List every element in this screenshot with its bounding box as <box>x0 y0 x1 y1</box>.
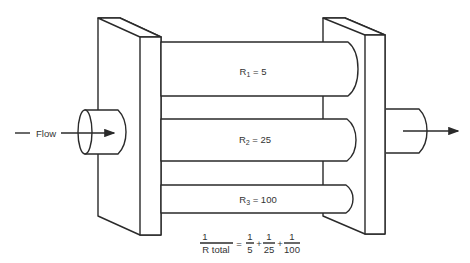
term2-denominator: 25 <box>264 244 275 255</box>
term1-numerator: 1 <box>247 231 252 242</box>
inlet-pipe-opening <box>78 110 92 154</box>
lhs-numerator: 1 <box>202 231 207 242</box>
term2-numerator: 1 <box>266 231 271 242</box>
total-resistance-formula: 1 R total = 1 5 + 1 25 + 1 100 <box>200 231 300 255</box>
pipe-r1-label: R1 = 5 <box>240 66 267 78</box>
term1-denominator: 5 <box>247 244 252 255</box>
pipe-r1: R1 = 5 <box>161 42 358 96</box>
pipe-r2-label: R2 = 25 <box>239 134 271 146</box>
pipe-r3: R3 = 100 <box>161 185 353 213</box>
term3-denominator: 100 <box>284 244 300 255</box>
left-plate-front <box>140 37 161 235</box>
lhs-denominator: R total <box>202 244 229 255</box>
pipe-r2: R2 = 25 <box>161 119 356 161</box>
plus-sign-1: + <box>256 238 262 249</box>
parallel-resistance-diagram: R1 = 5 R2 = 25 R3 = 100 Flow 1 R total =… <box>0 0 470 263</box>
inlet-pipe <box>78 110 126 154</box>
right-plate-front <box>365 35 385 234</box>
pipe-r3-label: R3 = 100 <box>239 194 276 206</box>
flow-label: Flow <box>36 128 56 139</box>
equals-sign: = <box>236 238 242 249</box>
plus-sign-2: + <box>277 238 283 249</box>
term3-numerator: 1 <box>289 231 294 242</box>
